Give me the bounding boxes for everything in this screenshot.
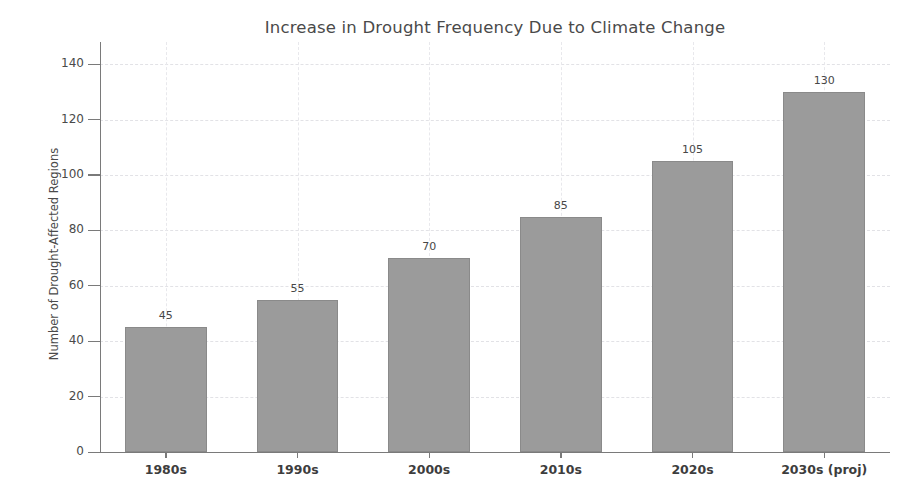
- x-tick-mark: [429, 452, 430, 458]
- x-tick-label: 1990s: [228, 462, 368, 477]
- x-tick-mark: [824, 452, 825, 458]
- y-tick-mark: [88, 174, 100, 175]
- y-tick-mark: [88, 452, 100, 453]
- y-tick-label: 140: [40, 56, 84, 70]
- gridline-horizontal: [100, 341, 890, 342]
- bar-value-label: 45: [126, 309, 206, 322]
- bar: [783, 92, 865, 452]
- x-tick-mark: [297, 452, 298, 458]
- x-tick-label: 2020s: [623, 462, 763, 477]
- y-tick-mark: [88, 396, 100, 397]
- chart-title: Increase in Drought Frequency Due to Cli…: [100, 18, 890, 37]
- y-tick-mark: [88, 285, 100, 286]
- y-tick-label: 40: [40, 333, 84, 347]
- bar: [520, 217, 602, 452]
- x-tick-mark: [560, 452, 561, 458]
- gridline-horizontal: [100, 397, 890, 398]
- bar-value-label: 55: [258, 282, 338, 295]
- x-tick-label: 1980s: [96, 462, 236, 477]
- bar: [652, 161, 734, 452]
- bar-value-label: 130: [784, 74, 864, 87]
- y-tick-label: 100: [40, 167, 84, 181]
- gridline-horizontal: [100, 175, 890, 176]
- gridline-horizontal: [100, 230, 890, 231]
- gridline-horizontal: [100, 64, 890, 65]
- bar-value-label: 105: [653, 143, 733, 156]
- x-tick-mark: [692, 452, 693, 458]
- bar-value-label: 85: [521, 199, 601, 212]
- y-tick-label: 60: [40, 278, 84, 292]
- bar-value-label: 70: [389, 240, 469, 253]
- bar: [257, 300, 339, 452]
- gridline-horizontal: [100, 286, 890, 287]
- chart-figure: Increase in Drought Frequency Due to Cli…: [0, 0, 908, 495]
- x-tick-label: 2000s: [359, 462, 499, 477]
- y-axis-label: Number of Drought-Affected Regions: [47, 104, 61, 404]
- x-tick-label: 2030s (proj): [754, 462, 894, 477]
- y-tick-mark: [88, 230, 100, 231]
- y-tick-label: 0: [40, 444, 84, 458]
- plot-area: [100, 42, 890, 452]
- bar: [125, 327, 207, 452]
- y-tick-label: 80: [40, 222, 84, 236]
- y-tick-mark: [88, 341, 100, 342]
- y-tick-mark: [88, 119, 100, 120]
- gridline-horizontal: [100, 120, 890, 121]
- bar: [388, 258, 470, 452]
- y-tick-label: 20: [40, 389, 84, 403]
- x-tick-label: 2010s: [491, 462, 631, 477]
- x-axis-spine: [100, 452, 890, 453]
- y-tick-label: 120: [40, 112, 84, 126]
- y-axis-spine: [100, 42, 101, 453]
- y-tick-mark: [88, 64, 100, 65]
- x-tick-mark: [165, 452, 166, 458]
